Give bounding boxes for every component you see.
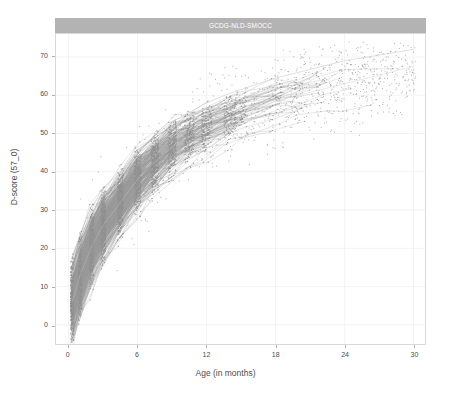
y-tick-label: 70 (28, 52, 48, 59)
y-tick-mark (52, 249, 55, 250)
y-tick-label: 10 (28, 283, 48, 290)
y-tick-mark (52, 210, 55, 211)
x-tick-mark (137, 345, 138, 348)
y-tick-label: 40 (28, 167, 48, 174)
x-tick-mark (276, 345, 277, 348)
x-tick-label: 0 (53, 351, 83, 358)
x-tick-label: 18 (261, 351, 291, 358)
y-tick-mark (52, 172, 55, 173)
chart-figure: GCDG-NLD-SMOCC 0102030405060700612182430… (0, 0, 451, 395)
x-axis-title: Age (in months) (0, 368, 451, 378)
x-tick-mark (68, 345, 69, 348)
x-tick-label: 24 (330, 351, 360, 358)
facet-strip-header: GCDG-NLD-SMOCC (55, 18, 426, 33)
y-tick-mark (52, 56, 55, 57)
x-tick-mark (345, 345, 346, 348)
y-tick-mark (52, 95, 55, 96)
y-tick-mark (52, 326, 55, 327)
x-tick-label: 12 (191, 351, 221, 358)
x-tick-mark (414, 345, 415, 348)
x-tick-label: 30 (399, 351, 429, 358)
x-tick-label: 6 (122, 351, 152, 358)
facet-strip-label: GCDG-NLD-SMOCC (55, 18, 426, 33)
plot-panel (55, 33, 426, 345)
y-tick-label: 50 (28, 129, 48, 136)
y-tick-mark (52, 133, 55, 134)
scatter-data-layer (56, 34, 425, 344)
y-tick-label: 20 (28, 244, 48, 251)
x-tick-mark (206, 345, 207, 348)
y-tick-label: 0 (28, 321, 48, 328)
y-tick-label: 60 (28, 90, 48, 97)
y-tick-mark (52, 287, 55, 288)
y-axis-title: D-score (57_0) (9, 127, 19, 227)
y-tick-label: 30 (28, 206, 48, 213)
